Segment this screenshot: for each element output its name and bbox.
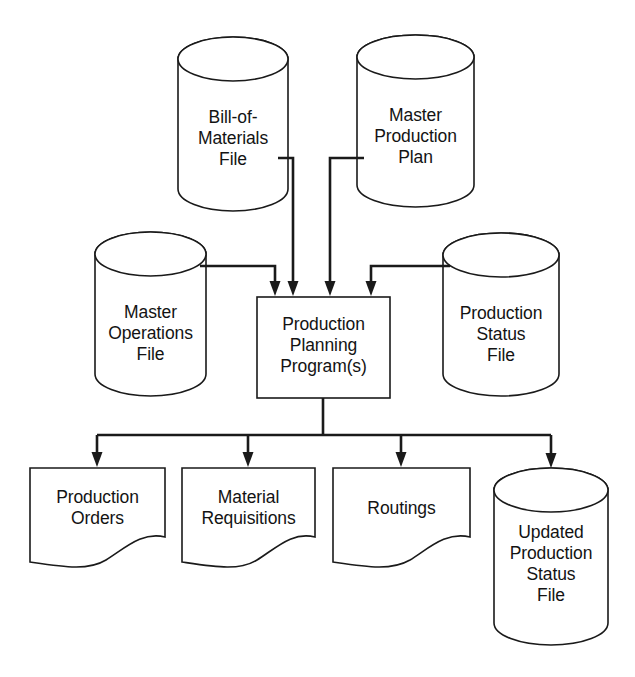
document-material-requisitions[interactable] [182,468,315,567]
process-box-production-planning-program[interactable] [257,297,390,398]
edge-program-output-bus [97,398,551,435]
document-routings[interactable] [333,468,470,567]
document-production-orders[interactable] [30,468,165,567]
diagram-canvas: Bill-of- Materials File Master Productio… [0,0,635,677]
cylinder-production-status-file[interactable] [443,233,559,396]
edge-program-to-material-requisitions [243,435,254,467]
diagram-graphics [0,0,635,677]
cylinder-bill-of-materials-file[interactable] [178,37,288,211]
cylinder-updated-production-status-file[interactable] [494,468,608,645]
edge-psf-to-program [366,266,451,296]
cylinder-master-production-plan[interactable] [357,35,474,207]
cylinder-master-operations-file[interactable] [95,232,206,396]
edge-program-to-updated-status [546,435,557,468]
edge-mof-to-program [200,266,281,296]
edge-program-to-production-orders [92,435,103,467]
edge-program-to-routings [396,435,407,467]
